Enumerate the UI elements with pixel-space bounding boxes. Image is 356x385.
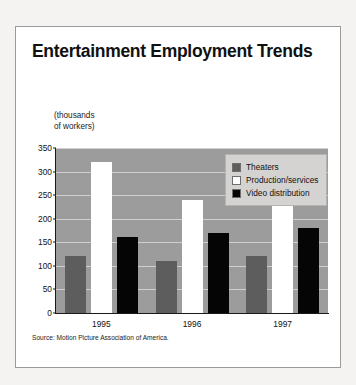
source-note: Source: Motion Picture Association of Am…: [32, 334, 169, 341]
x-axis-line: [55, 313, 329, 314]
page-title: Entertainment Employment Trends: [32, 41, 312, 62]
legend-item: Production/services: [232, 174, 318, 186]
bar-production-services-1997: [272, 200, 293, 313]
y-tick-mark: [53, 148, 56, 149]
y-tick-label: 150: [38, 237, 52, 247]
y-tick-label: 300: [38, 167, 52, 177]
legend-item: Theaters: [232, 161, 318, 173]
bar-video-distribution-1997: [298, 228, 319, 313]
legend-swatch-icon: [232, 189, 241, 198]
x-tick-label: 1996: [183, 319, 202, 329]
y-tick-mark: [53, 218, 56, 219]
y-axis-caption: (thousands of workers): [54, 111, 95, 132]
legend-label: Theaters: [246, 162, 279, 172]
y-tick-mark: [53, 171, 56, 172]
legend-swatch-icon: [232, 163, 241, 172]
chart-frame: Entertainment Employment Trends (thousan…: [15, 26, 341, 368]
y-tick-label: 250: [38, 190, 52, 200]
bar-video-distribution-1996: [208, 233, 229, 313]
y-tick-mark: [53, 313, 56, 314]
bar-theaters-1995: [65, 256, 86, 313]
y-tick-label: 100: [38, 261, 52, 271]
bar-theaters-1996: [156, 261, 177, 313]
y-tick-label: 50: [43, 284, 52, 294]
y-tick-mark: [53, 195, 56, 196]
y-tick-mark: [53, 289, 56, 290]
y-tick-label: 200: [38, 214, 52, 224]
legend-label: Production/services: [246, 175, 318, 185]
bar-production-services-1995: [91, 162, 112, 313]
bar-production-services-1996: [182, 200, 203, 313]
y-tick-label: 350: [38, 143, 52, 153]
y-tick-label: 0: [47, 308, 52, 318]
chart-figure: Entertainment Employment Trends (thousan…: [0, 0, 356, 385]
legend-swatch-icon: [232, 176, 241, 185]
y-tick-mark: [53, 242, 56, 243]
legend-label: Video distribution: [246, 188, 310, 198]
y-tick-mark: [53, 265, 56, 266]
x-tick-label: 1995: [92, 319, 111, 329]
legend-item: Video distribution: [232, 187, 318, 199]
bar-video-distribution-1995: [117, 237, 138, 313]
bar-theaters-1997: [246, 256, 267, 313]
x-tick-label: 1997: [273, 319, 292, 329]
chart-legend: TheatersProduction/servicesVideo distrib…: [225, 154, 327, 206]
gridline: [56, 148, 328, 149]
